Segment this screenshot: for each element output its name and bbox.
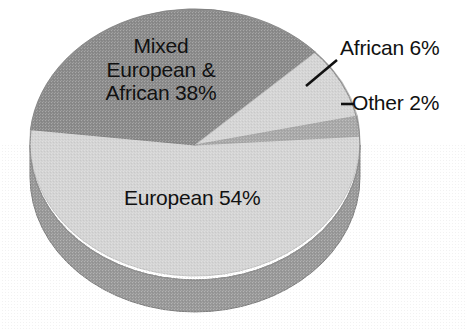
slice-label-mixed-line-2: European & [86, 58, 236, 82]
slice-label-mixed-line-1: Mixed [86, 34, 236, 58]
slice-label-mixed-european-african: Mixed European & African 38% [86, 34, 236, 105]
slice-label-african: African 6% [340, 36, 440, 60]
slice-label-european: European 54% [124, 186, 261, 210]
slice-label-mixed-line-3: African 38% [86, 81, 236, 105]
pie-chart: Mixed European & African 38% European 54… [0, 0, 467, 331]
slice-label-other: Other 2% [352, 91, 439, 115]
